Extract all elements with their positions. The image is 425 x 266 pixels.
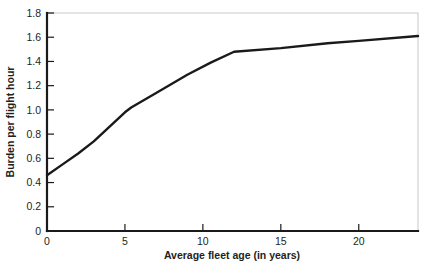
y-axis-title: Burden per flight hour [4,67,16,178]
x-tick-label: 10 [197,235,209,247]
y-tick-label: 0.6 [26,152,41,164]
y-tick-label: 1.0 [26,104,41,116]
x-tick-label: 15 [275,235,287,247]
y-tick-label: 0 [35,225,41,237]
y-tick-label: 1.8 [26,7,41,19]
y-tick-label: 1.6 [26,31,41,43]
y-tick-label: 1.2 [26,79,41,91]
y-tick-label: 0.2 [26,200,41,212]
y-tick-label: 1.4 [26,55,41,67]
y-tick-label: 0.4 [26,176,41,188]
line-chart: 00.20.40.60.81.01.21.41.61.8 05101520 Av… [0,0,425,266]
y-tick-label: 0.8 [26,128,41,140]
x-tick-label: 5 [122,235,128,247]
x-axis-title: Average fleet age (in years) [164,249,300,261]
x-tick-label: 20 [353,235,365,247]
x-tick-label: 0 [44,235,50,247]
chart-figure: 00.20.40.60.81.01.21.41.61.8 05101520 Av… [0,0,425,266]
